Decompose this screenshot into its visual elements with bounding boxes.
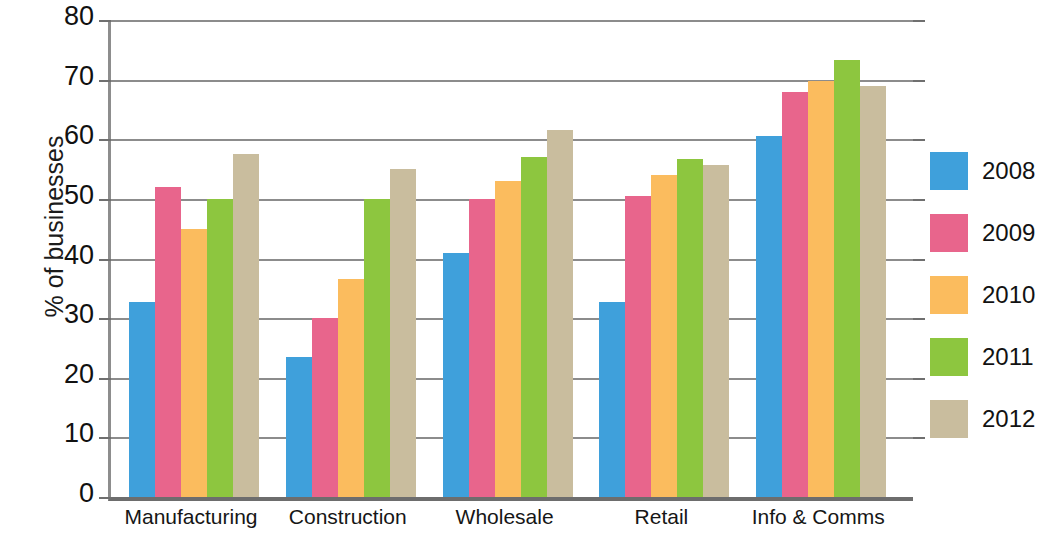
legend-item-2012[interactable]: 2012 [930, 388, 1046, 450]
y-axis-tick-labels: 80706050403020100 [34, 0, 94, 533]
bar-construction-2009 [312, 318, 338, 497]
legend-item-2008[interactable]: 2008 [930, 140, 1046, 202]
legend: 20082009201020112012 [930, 140, 1046, 450]
bar-construction-2010 [338, 279, 364, 497]
tick-mark-right-20 [913, 378, 925, 380]
bar-wholesale-2011 [521, 157, 547, 497]
bar-group-manufacturing [129, 20, 259, 497]
bar-chart: % of businesses 80706050403020100 Manufa… [0, 0, 1046, 533]
tick-mark-left-10 [99, 437, 111, 439]
tick-mark-left-50 [99, 199, 111, 201]
bars-layer [111, 20, 913, 497]
bar-construction-2008 [286, 357, 312, 497]
legend-label-2011: 2011 [982, 343, 1034, 371]
bar-manufacturing-2012 [233, 154, 259, 497]
y-tick-label-40: 40 [40, 242, 94, 269]
tick-mark-right-60 [913, 139, 925, 141]
bar-group-info-comms [756, 20, 886, 497]
y-tick-label-60: 60 [40, 122, 94, 149]
bar-group-construction [286, 20, 416, 497]
bar-info-comms-2008 [756, 136, 782, 497]
tick-mark-left-60 [99, 139, 111, 141]
y-tick-label-20: 20 [40, 361, 94, 388]
tick-mark-right-50 [913, 199, 925, 201]
bar-wholesale-2008 [443, 253, 469, 497]
legend-swatch-2010 [930, 276, 968, 314]
bar-wholesale-2010 [495, 181, 521, 497]
legend-label-2010: 2010 [982, 281, 1035, 309]
bar-construction-2012 [390, 169, 416, 497]
bar-manufacturing-2009 [155, 187, 181, 497]
bar-manufacturing-2011 [207, 199, 233, 497]
y-tick-label-0: 0 [40, 480, 94, 507]
tick-mark-left-70 [99, 80, 111, 82]
bar-construction-2011 [364, 199, 390, 497]
bar-group-wholesale [443, 20, 573, 497]
tick-mark-left-80 [99, 20, 111, 22]
legend-swatch-2008 [930, 152, 968, 190]
bar-info-comms-2010 [808, 81, 834, 497]
tick-mark-left-30 [99, 318, 111, 320]
y-tick-label-10: 10 [40, 420, 94, 447]
bar-retail-2009 [625, 196, 651, 497]
tick-mark-right-30 [913, 318, 925, 320]
tick-mark-left-20 [99, 378, 111, 380]
bar-group-retail [599, 20, 729, 497]
tick-mark-left-40 [99, 259, 111, 261]
bar-wholesale-2012 [547, 130, 573, 497]
bar-info-comms-2012 [860, 86, 886, 497]
bar-manufacturing-2010 [181, 229, 207, 497]
bar-retail-2011 [677, 159, 703, 497]
legend-label-2008: 2008 [982, 157, 1035, 185]
tick-mark-right-70 [913, 80, 925, 82]
legend-label-2012: 2012 [982, 405, 1035, 433]
bar-info-comms-2009 [782, 92, 808, 497]
bar-wholesale-2009 [469, 199, 495, 497]
bar-manufacturing-2008 [129, 302, 155, 497]
category-label-info-comms: Info & Comms [713, 505, 923, 529]
plot-area [108, 20, 913, 501]
tick-mark-right-40 [913, 259, 925, 261]
legend-swatch-2012 [930, 400, 968, 438]
legend-item-2010[interactable]: 2010 [930, 264, 1046, 326]
legend-label-2009: 2009 [982, 219, 1035, 247]
tick-mark-right-10 [913, 437, 925, 439]
legend-swatch-2009 [930, 214, 968, 252]
legend-swatch-2011 [930, 338, 968, 376]
y-tick-label-50: 50 [40, 182, 94, 209]
x-axis-category-labels: ManufacturingConstructionWholesaleRetail… [108, 505, 910, 533]
y-tick-label-80: 80 [40, 3, 94, 30]
bar-retail-2010 [651, 175, 677, 497]
bar-retail-2012 [703, 165, 729, 497]
legend-item-2011[interactable]: 2011 [930, 326, 1046, 388]
legend-item-2009[interactable]: 2009 [930, 202, 1046, 264]
tick-mark-right-80 [913, 20, 925, 22]
bar-info-comms-2011 [834, 60, 860, 497]
bar-retail-2008 [599, 302, 625, 497]
y-tick-label-70: 70 [40, 63, 94, 90]
y-tick-label-30: 30 [40, 301, 94, 328]
tick-mark-left-0 [99, 497, 111, 499]
